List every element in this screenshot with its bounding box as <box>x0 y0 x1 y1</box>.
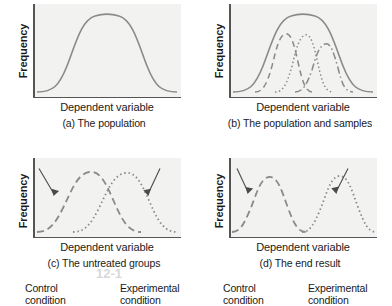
annotation-line-1: Experimental <box>120 283 179 295</box>
panel-c: Frequency Control condition Experimental… <box>0 140 196 279</box>
curves-d <box>229 158 377 238</box>
figure-number: 12-1 <box>96 266 122 281</box>
y-axis-label-text: Frequency <box>213 24 225 79</box>
plot-area-b <box>229 4 377 98</box>
annotation-line-2: condition <box>223 295 264 306</box>
annotation-line-2: condition <box>25 295 66 306</box>
x-axis-line-b <box>229 97 377 99</box>
curve-population <box>37 14 177 92</box>
x-axis-label-c: Dependent variable <box>33 241 181 253</box>
annotation-control-condition-d: Control condition <box>223 283 264 306</box>
y-axis-label-d: Frequency <box>212 164 226 238</box>
panel-d: Frequency Control condition Experimental… <box>196 140 392 279</box>
y-axis-label-text: Frequency <box>213 174 225 229</box>
curve-experimental-condition <box>302 176 376 232</box>
annotation-experimental-condition-d: Experimental condition <box>308 283 367 306</box>
x-axis-label-b: Dependent variable <box>229 101 377 113</box>
x-axis-label-a: Dependent variable <box>33 101 181 113</box>
annotation-experimental-condition-c: Experimental condition <box>120 283 179 306</box>
y-axis-line-c <box>33 158 35 238</box>
y-axis-line-d <box>229 158 231 238</box>
annotation-line-2: condition <box>120 295 179 306</box>
curves-a <box>33 4 181 98</box>
x-axis-line-c <box>33 237 181 239</box>
panel-caption-b: (b) The population and samples <box>216 117 384 129</box>
panel-caption-d: (d) The end result <box>216 257 384 269</box>
y-axis-label-text: Frequency <box>17 24 29 79</box>
plot-area-a <box>33 4 181 98</box>
x-axis-line-d <box>229 237 377 239</box>
y-axis-label-b: Frequency <box>212 4 226 98</box>
plot-area-d <box>229 158 377 238</box>
annotation-line-1: Control <box>25 283 66 295</box>
curves-b <box>229 4 377 98</box>
y-axis-label-a: Frequency <box>16 4 30 98</box>
annotation-line-2: condition <box>308 295 367 306</box>
plot-area-c <box>33 158 181 238</box>
annotation-line-1: Control <box>223 283 264 295</box>
y-axis-label-text: Frequency <box>17 174 29 229</box>
curves-c <box>33 158 181 238</box>
y-axis-line-a <box>33 4 35 98</box>
panel-b: Frequency Dependent variable (b) The pop… <box>196 0 392 139</box>
x-axis-label-d: Dependent variable <box>229 241 377 253</box>
y-axis-label-c: Frequency <box>16 164 30 238</box>
y-axis-line-b <box>229 4 231 98</box>
panel-a: Frequency Dependent variable (a) The pop… <box>0 0 196 139</box>
annotation-control-condition-c: Control condition <box>25 283 66 306</box>
x-axis-line-a <box>33 97 181 99</box>
curve-control-condition <box>37 172 141 232</box>
panel-caption-a: (a) The population <box>20 117 188 129</box>
curve-control-condition <box>232 177 306 232</box>
annotation-line-1: Experimental <box>308 283 367 295</box>
